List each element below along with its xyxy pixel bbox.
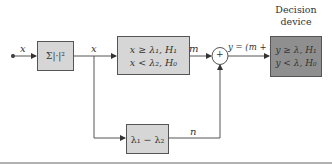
difference-label: λ₁ − λ₂ [131,133,165,146]
input-x-label: x [20,44,26,54]
threshold-block: x ≥ λ₁, H₁ x < λ₂, H₀ [117,36,190,75]
threshold-line2: x < λ₂, H₀ [130,56,177,69]
energy-block: Σ|·|² [37,41,74,71]
decision-block: y ≥ λ, H₁ y < λ, H₀ [270,36,322,77]
decision-title-line2: device [268,16,324,28]
decision-title: Decision device [268,4,324,28]
n-label: n [190,127,196,137]
decision-title-line1: Decision [268,4,324,16]
decision-line1: y ≥ λ, H₁ [275,44,316,57]
difference-block: λ₁ − λ₂ [126,124,169,154]
energy-block-label: Σ|·|² [46,50,65,63]
m-label: m [189,44,198,54]
decision-line2: y < λ, H₀ [275,57,316,70]
junction-x-label: x [91,44,97,54]
threshold-line1: x ≥ λ₁, H₁ [130,43,177,56]
summer-plus: + [216,50,224,59]
